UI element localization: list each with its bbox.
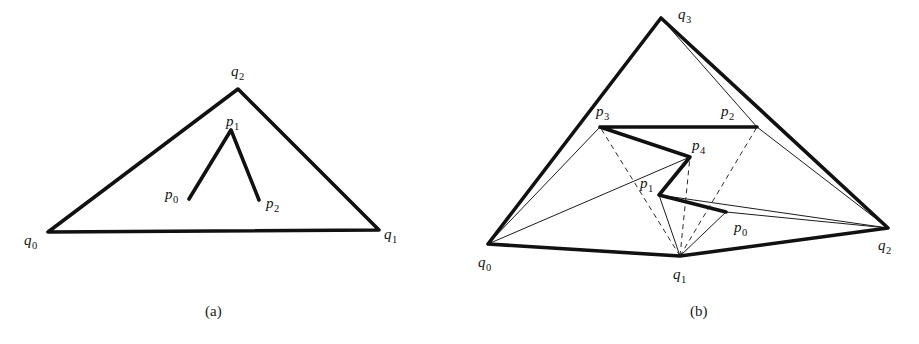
dash-q1-p3 <box>600 127 680 256</box>
label-p2-subscript: 2 <box>274 203 279 214</box>
label-p4-subscript: 4 <box>700 145 706 156</box>
label-q0: q0 <box>478 254 491 273</box>
label-q2: q2 <box>231 63 244 82</box>
panel-b: q0q1q2q3p0p1p2p3p4(b) <box>478 6 891 320</box>
label-p0: p0 <box>733 219 747 238</box>
label-p3: p3 <box>595 103 609 122</box>
edge-q3-p2 <box>661 18 757 127</box>
dash-q1-p4 <box>680 157 690 256</box>
label-p2: p2 <box>265 195 279 214</box>
label-q1: q1 <box>673 266 686 285</box>
label-p2-subscript: 2 <box>729 111 734 122</box>
figure-canvas: q0q1q2p0p1p2(a) q0q1q2q3p0p1p2p3p4(b) <box>0 0 919 344</box>
edge-q1-p1 <box>659 195 680 256</box>
label-q0: q0 <box>24 232 37 251</box>
label-p1-subscript: 1 <box>234 121 239 132</box>
label-p1: p1 <box>639 175 653 194</box>
figure-container: q0q1q2p0p1p2(a) q0q1q2q3p0p1p2p3p4(b) <box>0 0 919 344</box>
label-p2: p2 <box>720 103 734 122</box>
edge-q2-p1 <box>659 195 888 228</box>
label-q2-subscript: 2 <box>239 71 244 82</box>
label-q1-subscript: 1 <box>392 234 397 245</box>
label-p4: p4 <box>691 137 706 156</box>
label-q1: q1 <box>384 226 397 245</box>
panel-a: q0q1q2p0p1p2(a) <box>24 63 397 320</box>
edge-q0-p4 <box>488 157 690 244</box>
quad-q <box>488 18 888 256</box>
label-q2: q2 <box>878 237 891 256</box>
label-p0-subscript: 0 <box>742 227 747 238</box>
caption-panel-a: (a) <box>205 303 222 320</box>
polyline-p <box>600 127 757 212</box>
label-p3-subscript: 3 <box>604 111 609 122</box>
label-p1-subscript: 1 <box>648 183 653 194</box>
label-q0-subscript: 0 <box>32 240 37 251</box>
label-p0: p0 <box>164 186 178 205</box>
edge-q2-p0 <box>726 212 888 228</box>
label-q1-subscript: 1 <box>681 274 686 285</box>
edge-q2-p2 <box>757 127 888 228</box>
label-q2-subscript: 2 <box>886 245 891 256</box>
edge-q0-p3 <box>488 127 600 244</box>
label-q3: q3 <box>678 6 691 25</box>
label-p0-subscript: 0 <box>173 194 178 205</box>
polyline-p <box>189 130 259 200</box>
label-q3-subscript: 3 <box>686 14 691 25</box>
caption-panel-b: (b) <box>690 303 708 320</box>
label-q0-subscript: 0 <box>486 262 491 273</box>
